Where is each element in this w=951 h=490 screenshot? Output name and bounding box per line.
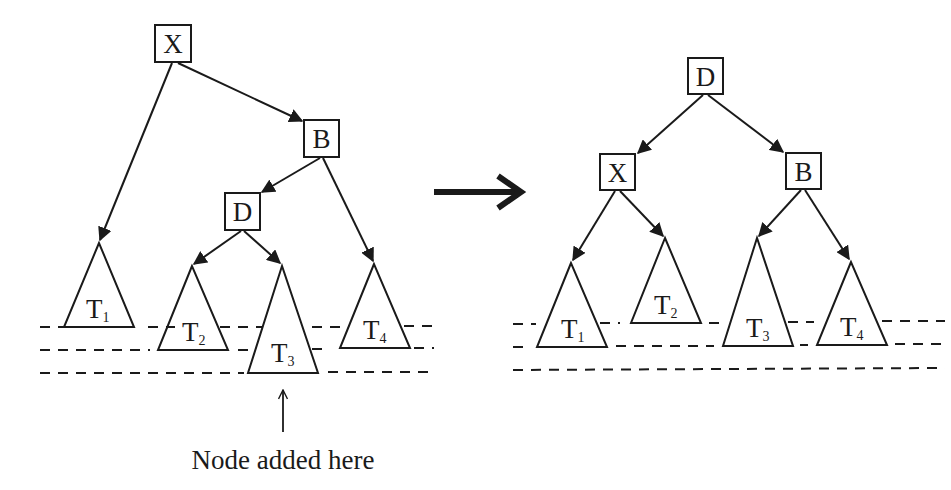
svg-text:X: X — [608, 158, 628, 188]
before-node-b: B — [304, 120, 339, 157]
svg-text:T4: T4 — [363, 315, 387, 346]
edge-d-t3 — [244, 231, 280, 263]
after-node-d: D — [688, 58, 723, 94]
after-tree: D X B T1 T2 T3 T4 — [513, 58, 945, 370]
after-subtree-t4: T4 — [817, 262, 887, 345]
before-subtree-t1: T1 — [64, 243, 134, 327]
svg-text:T4: T4 — [840, 312, 864, 343]
svg-text:D: D — [696, 62, 716, 92]
after-node-x: X — [600, 154, 635, 190]
edge-x-b — [178, 63, 302, 121]
before-subtree-t3: T3 — [248, 266, 318, 373]
edge-b-t4 — [805, 190, 849, 259]
svg-text:T1: T1 — [86, 294, 110, 325]
svg-text:B: B — [312, 124, 330, 154]
before-subtree-t4: T4 — [340, 264, 410, 348]
svg-text:X: X — [163, 29, 183, 59]
svg-text:T2: T2 — [182, 317, 206, 348]
before-node-d: D — [225, 193, 260, 230]
before-tree: X B D T1 T2 T3 T4 Node adde — [40, 25, 434, 475]
edge-x-t1 — [100, 63, 172, 240]
node-added-annotation: Node added here — [192, 390, 375, 475]
before-subtree-t2: T2 — [158, 266, 228, 350]
svg-text:T3: T3 — [746, 313, 770, 344]
after-subtree-t3: T3 — [723, 238, 793, 346]
edge-x-t1 — [573, 191, 615, 260]
svg-text:T2: T2 — [654, 290, 678, 321]
transition-arrow-icon — [434, 176, 521, 208]
svg-text:B: B — [794, 157, 812, 187]
avl-rotation-diagram: X B D T1 T2 T3 T4 Node adde — [0, 0, 951, 490]
after-subtree-t1: T1 — [537, 263, 607, 347]
edge-d-x — [638, 95, 703, 153]
svg-text:T1: T1 — [561, 314, 585, 345]
edge-b-t3 — [759, 190, 801, 236]
svg-text:D: D — [233, 197, 253, 227]
after-subtree-t2: T2 — [631, 238, 701, 323]
edge-b-t4 — [323, 158, 373, 261]
svg-text:T3: T3 — [271, 338, 295, 369]
edge-d-b — [708, 95, 783, 152]
level-line-3-segment — [513, 368, 945, 370]
edge-x-t2 — [620, 191, 663, 236]
edge-b-d — [262, 158, 320, 192]
after-node-b: B — [786, 153, 821, 189]
edge-d-t2 — [194, 231, 241, 264]
node-added-caption: Node added here — [192, 445, 375, 475]
before-node-x: X — [155, 25, 191, 62]
